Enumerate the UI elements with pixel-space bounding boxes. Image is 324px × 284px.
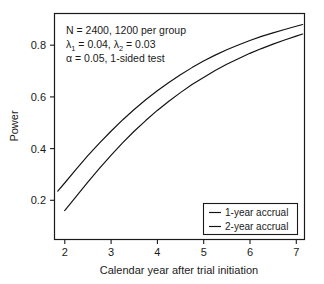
y-tick-label-3: 0.8 (31, 39, 46, 51)
legend-label-2-year: 2-year accrual (225, 221, 288, 232)
y-tick-label-2: 0.6 (31, 91, 46, 103)
x-tick-label-3: 5 (201, 246, 207, 258)
x-tick-label-5: 7 (293, 246, 299, 258)
lambda-1-value: = 0.04, (75, 38, 113, 50)
legend: 1-year accrual 2-year accrual (204, 204, 298, 235)
chart-canvas: 0.2 0.4 0.6 0.8 2 3 4 5 6 7 Calendar yea… (0, 0, 324, 284)
x-tick-label-4: 6 (247, 246, 253, 258)
lambda-2-value: = 0.03 (123, 38, 156, 50)
x-tick-label-0: 2 (62, 246, 68, 258)
x-axis-title: Calendar year after trial initiation (100, 264, 258, 276)
y-axis-title: Power (8, 110, 20, 142)
y-tick-label-1: 0.4 (31, 143, 46, 155)
legend-label-1-year: 1-year accrual (225, 207, 288, 218)
figure-background (0, 0, 324, 284)
annotation-sample-size: N = 2400, 1200 per group (66, 24, 186, 36)
x-tick-label-2: 4 (154, 246, 160, 258)
x-tick-label-1: 3 (108, 246, 114, 258)
y-tick-label-0: 0.2 (31, 194, 46, 206)
annotation-alpha-level: α = 0.05, 1-sided test (66, 52, 165, 64)
power-curve-figure: 0.2 0.4 0.6 0.8 2 3 4 5 6 7 Calendar yea… (0, 0, 324, 284)
